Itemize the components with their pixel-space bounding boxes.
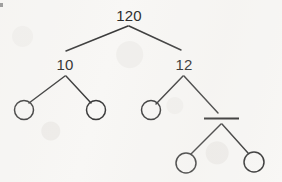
edge-root-to-right-child [129,26,181,50]
tree-node-labels: 120 10 12 [56,7,192,73]
leaf-circle-right-left [142,101,161,120]
edge-right-to-left-leaf [156,76,183,104]
diagram-canvas: 120 10 12 [0,0,282,182]
leaf-circle-bottom-left [176,153,196,173]
binary-tree-figure: 120 10 12 [0,0,282,182]
scan-corner-mark [0,3,3,7]
leaf-circle-bottom-right [244,152,264,172]
node-label-root: 120 [116,7,142,24]
node-label-left-child: 10 [56,56,73,73]
tree-edges [29,26,248,154]
edge-root-to-left-child [66,26,128,51]
edge-redacted-to-right-leaf [222,124,248,153]
tree-leaf-nodes [15,101,265,174]
leaf-circle-left-right [87,101,106,120]
edge-left-to-left-leaf [29,76,65,103]
edge-right-to-redacted-node [184,76,218,113]
leaf-circle-left-left [15,101,34,120]
node-label-right-child: 12 [175,56,192,73]
edge-left-to-right-leaf [66,76,91,103]
edge-redacted-to-left-leaf [191,124,221,154]
